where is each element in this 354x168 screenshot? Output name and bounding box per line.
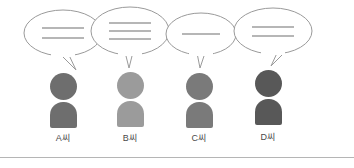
person-group-d: D씨 <box>224 0 312 152</box>
person-body-icon <box>50 102 77 128</box>
bubble-tail-join <box>189 51 213 56</box>
person-head-icon <box>117 72 144 99</box>
illustration-canvas: A씨B씨C씨D씨 <box>0 0 354 168</box>
person-body-icon <box>255 99 282 125</box>
person-head-icon <box>186 73 213 100</box>
speech-bubble-d <box>224 0 312 72</box>
person-body-icon <box>117 101 144 127</box>
person-label-d: D씨 <box>224 130 312 143</box>
bottom-divider <box>0 157 354 158</box>
person-body-icon <box>186 102 213 128</box>
bubble-tail-join <box>51 52 75 57</box>
person-head-icon <box>50 73 77 100</box>
person-figure-icon <box>224 70 312 125</box>
bubble-body-icon <box>234 8 312 54</box>
bubble-tail-join <box>118 51 142 56</box>
bubble-tail-join <box>261 50 285 55</box>
person-head-icon <box>255 70 282 97</box>
